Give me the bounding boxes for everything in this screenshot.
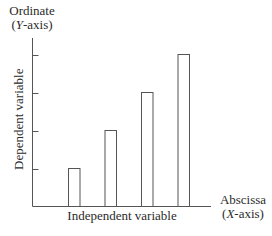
bar: [142, 93, 154, 207]
bar: [178, 55, 190, 207]
axes: [33, 38, 212, 207]
bar: [69, 169, 81, 207]
bar-chart: [0, 0, 272, 236]
bar: [105, 131, 117, 207]
bars: [69, 55, 190, 207]
